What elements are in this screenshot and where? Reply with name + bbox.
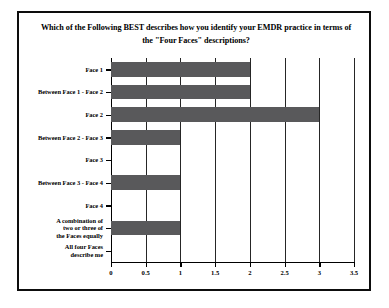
chart-bar-row	[111, 126, 354, 149]
chart-bar	[111, 62, 250, 77]
plot-area: 00.511.522.533.5Face 1Between Face 1 - F…	[111, 58, 354, 262]
x-axis-tick-label: 0	[99, 269, 123, 276]
chart-title: Which of the Following BEST describes ho…	[29, 22, 363, 47]
y-axis-tick	[106, 251, 111, 252]
chart-bar	[111, 85, 250, 100]
chart-bar-row	[111, 194, 354, 217]
y-axis-category-label: Face 2	[15, 111, 103, 119]
x-axis-tick-label: 2	[238, 269, 262, 276]
x-axis-tick-label: 1	[168, 269, 192, 276]
chart-bar-row	[111, 171, 354, 194]
x-axis-tick-label: 0.5	[134, 269, 158, 276]
y-axis-category-label: Between Face 3 - Face 4	[15, 179, 103, 187]
chart-title-line-1: Which of the Following BEST describes ho…	[29, 22, 363, 35]
x-axis-tick-label: 2.5	[273, 269, 297, 276]
chart-bar-row	[111, 239, 354, 262]
y-axis-tick	[106, 69, 111, 70]
chart-title-line-2: the "Four Faces" descriptions?	[29, 35, 363, 48]
y-axis-category-label: Face 4	[15, 202, 103, 210]
chart-bar	[111, 130, 180, 145]
x-axis-tick-label: 3.5	[342, 269, 366, 276]
figure-root: Which of the Following BEST describes ho…	[0, 0, 389, 308]
y-axis-tick	[106, 183, 111, 184]
y-axis-tick	[106, 228, 111, 229]
chart-frame: Which of the Following BEST describes ho…	[17, 11, 371, 291]
chart-bar	[111, 107, 319, 122]
chart-bar-row	[111, 149, 354, 172]
x-axis-tick-label: 3	[307, 269, 331, 276]
y-axis-category-label: Between Face 1 - Face 2	[15, 88, 103, 96]
y-axis-category-label: All four Faces describe me	[15, 243, 103, 258]
y-axis-tick	[106, 137, 111, 138]
chart-bar-row	[111, 58, 354, 81]
y-axis-tick	[106, 115, 111, 116]
chart-bar-row	[111, 217, 354, 240]
chart-bar	[111, 221, 180, 236]
y-axis-tick	[106, 92, 111, 93]
y-axis-tick	[106, 160, 111, 161]
x-axis-tick	[354, 262, 355, 267]
y-axis-category-label: Face 1	[15, 66, 103, 74]
y-axis-category-label: Face 3	[15, 156, 103, 164]
x-axis-line	[111, 262, 354, 263]
y-axis-category-label: Between Face 2 - Face 3	[15, 134, 103, 142]
chart-bar	[111, 175, 180, 190]
x-gridline	[354, 58, 355, 262]
y-axis-tick	[106, 205, 111, 206]
chart-bar-row	[111, 81, 354, 104]
x-axis-tick-label: 1.5	[203, 269, 227, 276]
y-axis-category-label: A combination of two or three of the Fac…	[15, 217, 103, 240]
chart-bar-row	[111, 103, 354, 126]
